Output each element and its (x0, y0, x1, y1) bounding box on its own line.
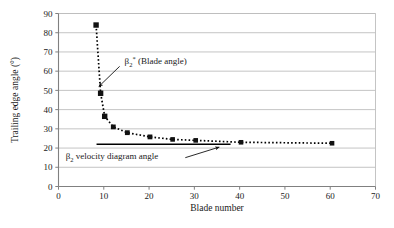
annot0-rest: (Blade angle) (136, 56, 187, 66)
data-point-25.2-24.5 (170, 137, 175, 142)
data-point-30.3-24 (193, 138, 198, 143)
data-point-8.3-84 (93, 22, 98, 27)
y-tick-label-50: 50 (44, 86, 54, 96)
x-tick-label-30: 30 (190, 191, 200, 201)
data-point-15.2-28 (125, 130, 130, 135)
data-point-10.2-36.5 (102, 114, 107, 119)
x-tick-label-0: 0 (56, 191, 61, 201)
y-tick-label-20: 20 (44, 143, 54, 153)
y-tick-label-30: 30 (44, 124, 54, 134)
x-tick-label-70: 70 (371, 191, 381, 201)
chart-figure: 010203040506070 0102030405060708090 β2* … (0, 0, 394, 228)
y-tick-label-0: 0 (48, 182, 53, 192)
x-tick-label-20: 20 (145, 191, 155, 201)
data-point-20.2-25.8 (148, 135, 153, 140)
y-tick-label-80: 80 (44, 28, 54, 38)
annot1-rest: velocity diagram angle (74, 151, 159, 161)
x-tick-label-40: 40 (235, 191, 245, 201)
trailing-edge-angle-chart: 010203040506070 0102030405060708090 β2* … (0, 0, 394, 228)
x-tick-label-60: 60 (326, 191, 336, 201)
y-tick-label-90: 90 (44, 9, 54, 19)
y-tick-label-60: 60 (44, 66, 54, 76)
data-point-9.3-48.5 (98, 91, 103, 96)
x-tick-label-10: 10 (99, 191, 109, 201)
data-point-40.3-23 (239, 140, 244, 145)
y-tick-label-10: 10 (44, 162, 54, 172)
data-point-12.1-31 (111, 125, 116, 130)
y-axis-title: Trailing edge angle (°) (10, 57, 21, 143)
x-tick-label-50: 50 (280, 191, 290, 201)
data-point-60.4-22.5 (330, 141, 335, 146)
y-tick-label-40: 40 (44, 105, 54, 115)
velocity-diagram-annotation-label: β2 velocity diagram angle (66, 151, 159, 162)
x-axis-title: Blade number (190, 203, 244, 213)
y-tick-label-70: 70 (44, 47, 54, 57)
